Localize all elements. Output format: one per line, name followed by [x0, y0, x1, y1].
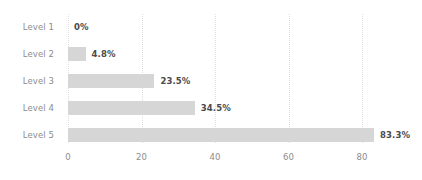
table-row: 23.5% — [68, 68, 362, 95]
category-label-level-4: Level 4 — [23, 101, 54, 115]
table-row: 83.3% — [68, 122, 362, 149]
bar-value-level-1: 0% — [74, 20, 89, 34]
bar-value-level-3: 23.5% — [160, 74, 190, 88]
category-label-level-2: Level 2 — [23, 47, 54, 61]
bar-value-level-4: 34.5% — [201, 101, 231, 115]
xtick-label-0: 0 — [65, 150, 71, 164]
xtick-label-60: 60 — [283, 150, 294, 164]
category-label-level-1: Level 1 — [23, 20, 54, 34]
gridline-80 — [362, 14, 363, 143]
xtick-label-20: 20 — [136, 150, 147, 164]
bar-level-3 — [68, 74, 154, 88]
bar-level-2 — [68, 47, 86, 61]
table-row: 34.5% — [68, 95, 362, 122]
xtick-label-80: 80 — [356, 150, 367, 164]
xtick-label-40: 40 — [209, 150, 220, 164]
table-row: 0% — [68, 14, 362, 41]
category-label-level-3: Level 3 — [23, 74, 54, 88]
bar-chart: Level 1 Level 2 Level 3 Level 4 Level 5 … — [0, 0, 422, 180]
category-axis: Level 1 Level 2 Level 3 Level 4 Level 5 — [0, 14, 54, 143]
plot-area: 0% 4.8% 23.5% 34.5% 83.3% — [68, 14, 362, 143]
bar-level-5 — [68, 128, 374, 142]
category-label-level-5: Level 5 — [23, 128, 54, 142]
x-axis: 0 20 40 60 80 — [68, 150, 362, 166]
bar-value-level-5: 83.3% — [380, 128, 410, 142]
bar-level-4 — [68, 101, 195, 115]
table-row: 4.8% — [68, 41, 362, 68]
bar-value-level-2: 4.8% — [92, 47, 116, 61]
